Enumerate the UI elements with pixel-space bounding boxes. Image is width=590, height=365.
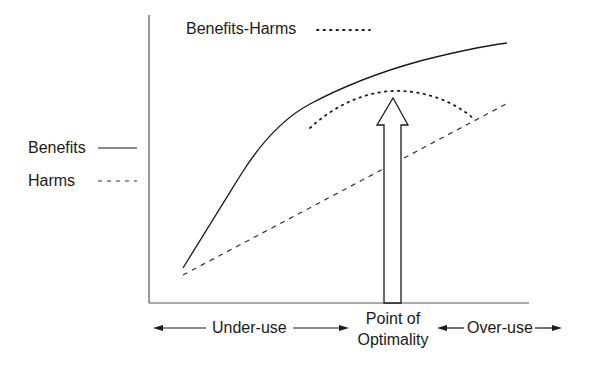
arrowhead-left-icon — [437, 325, 447, 331]
over-use-label: Over-use — [467, 320, 533, 336]
legend-harms-label: Harms — [28, 173, 75, 189]
optimality-arrow-icon — [377, 98, 408, 303]
optimality-label-line1: Point of — [352, 311, 434, 327]
arrowhead-right-icon — [552, 325, 562, 331]
arrowhead-right-icon — [339, 325, 349, 331]
under-use-label: Under-use — [212, 320, 287, 336]
legend-benefits-label: Benefits — [28, 140, 86, 156]
arrowhead-left-icon — [153, 325, 163, 331]
legend-benefits-harms-label: Benefits-Harms — [186, 21, 296, 37]
diagram-canvas — [0, 0, 590, 365]
benefits-curve — [183, 43, 507, 268]
optimality-label-line2: Optimality — [352, 332, 434, 348]
